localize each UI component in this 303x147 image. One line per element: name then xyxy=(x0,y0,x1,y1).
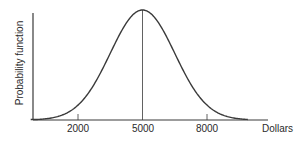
x-axis-label: Dollars xyxy=(262,123,293,134)
x-tick-label-2000: 2000 xyxy=(67,123,90,134)
probability-chart: 2000 5000 8000 Dollars Probability funct… xyxy=(0,0,303,147)
x-tick-label-8000: 8000 xyxy=(196,123,219,134)
bell-curve xyxy=(31,10,248,120)
y-axis-label: Probability function xyxy=(14,21,25,106)
x-tick-label-5000: 5000 xyxy=(132,123,155,134)
